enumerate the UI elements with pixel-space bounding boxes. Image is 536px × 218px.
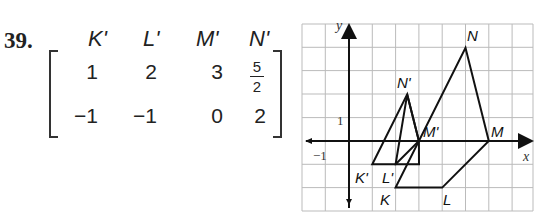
x-tick-neg1: −1 <box>313 148 327 163</box>
y-axis-down-arrow <box>346 199 352 205</box>
y-tick-1: 1 <box>337 113 344 128</box>
label-Np: N' <box>397 74 412 91</box>
coordinate-graph: y x 1 −1 N N' M' M K' L' K L <box>0 0 536 218</box>
x-axis-left-arrow <box>305 138 312 144</box>
label-L: L <box>443 191 451 208</box>
label-N: N <box>467 27 478 44</box>
label-M: M <box>491 123 504 140</box>
label-Lp: L' <box>382 169 394 186</box>
x-axis-label: x <box>522 149 530 164</box>
y-axis-label: y <box>334 18 343 33</box>
label-Mp: M' <box>423 123 439 140</box>
label-Kp: K' <box>355 169 369 186</box>
label-K: K <box>380 191 391 208</box>
